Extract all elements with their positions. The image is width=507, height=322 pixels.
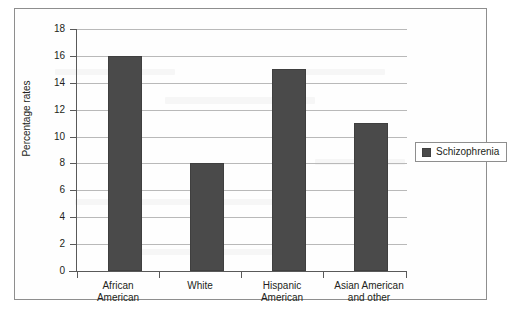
y-tick-2: 2 (39, 239, 65, 249)
y-tick-16: 16 (39, 51, 65, 61)
y-tick-label: 16 (39, 51, 65, 61)
x-axis-tick-mark (323, 272, 324, 278)
y-tick-12: 12 (39, 105, 65, 115)
chart-legend: Schizophrenia (415, 142, 507, 162)
y-tick-label: 8 (39, 158, 65, 168)
y-tick-label: 4 (39, 212, 65, 222)
x-axis-line (69, 271, 407, 272)
legend-swatch-icon (422, 148, 431, 157)
y-tick-18: 18 (39, 24, 65, 34)
figure-frame: 18 16 14 12 10 8 6 4 2 0 Percentage rate… (14, 8, 487, 300)
y-tick-14: 14 (39, 78, 65, 88)
y-tick-label: 18 (39, 24, 65, 34)
x-label-asian-american: Asian American and other (309, 280, 429, 304)
x-axis-tick-mark (406, 272, 407, 278)
bar-white (190, 163, 224, 271)
x-axis-tick-mark (159, 272, 160, 278)
y-axis-title: Percentage rates (21, 59, 32, 179)
y-tick-6: 6 (39, 185, 65, 195)
x-axis-tick-mark (241, 272, 242, 278)
bar-asian-american (354, 123, 388, 271)
y-tick-label: 2 (39, 239, 65, 249)
y-tick-label: 14 (39, 78, 65, 88)
y-tick-label: 0 (39, 266, 65, 276)
bar-hispanic-american (272, 69, 306, 271)
gridline-18 (77, 29, 407, 30)
legend-item-label: Schizophrenia (436, 147, 499, 157)
y-tick-8: 8 (39, 158, 65, 168)
y-tick-label: 10 (39, 132, 65, 142)
bar-african-american (108, 56, 142, 271)
x-axis-tick-mark (77, 272, 78, 278)
y-tick-0: 0 (39, 266, 65, 276)
y-tick-4: 4 (39, 212, 65, 222)
y-tick-label: 6 (39, 185, 65, 195)
y-tick-10: 10 (39, 132, 65, 142)
plot-area (77, 29, 407, 271)
y-tick-label: 12 (39, 105, 65, 115)
